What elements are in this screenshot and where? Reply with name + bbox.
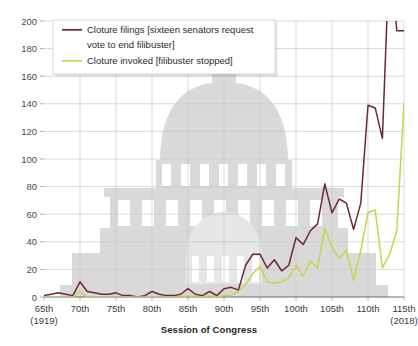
y-tick-label: 100 xyxy=(21,154,37,165)
x-tick-label: 80th xyxy=(143,303,162,314)
x-axis-title: Session of Congress xyxy=(0,324,418,335)
y-tick-label: 80 xyxy=(26,181,37,192)
y-axis-labels: 020406080100120140160180200 xyxy=(21,16,44,303)
y-tick-label: 140 xyxy=(21,98,37,109)
y-tick-label: 20 xyxy=(26,264,37,275)
legend-label: Cloture filings [sixteen senators reques… xyxy=(87,24,254,35)
y-tick-label: 60 xyxy=(26,209,37,220)
x-tick-label: 105th xyxy=(320,303,344,314)
y-tick-label: 0 xyxy=(32,292,37,303)
line-chart: 02040608010012014016018020065th70th75th8… xyxy=(0,0,418,346)
x-tick-label: 110th xyxy=(356,303,379,314)
x-tick-label: 90th xyxy=(215,303,234,314)
x-tick-label: 70th xyxy=(71,303,90,314)
y-tick-label: 40 xyxy=(26,236,37,247)
chart-container: 02040608010012014016018020065th70th75th8… xyxy=(0,0,418,346)
legend-label: Cloture invoked [filibuster stopped] xyxy=(87,55,233,66)
x-tick-label: 85th xyxy=(179,303,198,314)
x-tick-label: 95th xyxy=(251,303,270,314)
x-tick-label: 75th xyxy=(107,303,126,314)
y-tick-label: 180 xyxy=(21,43,37,54)
x-tick-label: 115th xyxy=(392,303,415,314)
x-axis-labels: 65th70th75th80th85th90th95th100th105th11… xyxy=(30,297,417,326)
legend-label: vote to end filibuster] xyxy=(87,39,175,50)
y-tick-label: 200 xyxy=(21,16,37,27)
y-tick-label: 160 xyxy=(21,71,37,82)
x-tick-label: 65th xyxy=(35,303,54,314)
chart-legend: Cloture filings [sixteen senators reques… xyxy=(53,20,278,77)
y-tick-label: 120 xyxy=(21,126,37,137)
x-tick-label: 100th xyxy=(284,303,308,314)
